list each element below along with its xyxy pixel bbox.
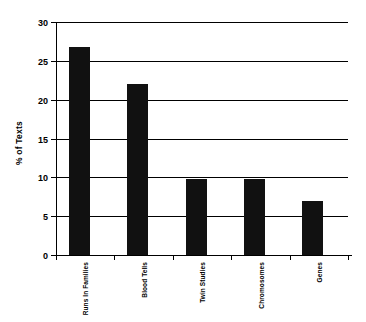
gridline xyxy=(56,22,348,23)
y-tick: 25 xyxy=(51,61,56,62)
x-tick xyxy=(114,255,115,260)
bar xyxy=(127,84,148,255)
bar-chart: % of Texts 051015202530 Runs In Families… xyxy=(0,0,366,322)
x-tick-label: Blood Tells xyxy=(141,262,148,298)
gridline xyxy=(56,61,348,62)
bar xyxy=(244,179,265,255)
y-tick-label: 0 xyxy=(43,251,48,261)
x-tick xyxy=(56,255,57,260)
y-tick-label: 10 xyxy=(38,173,48,183)
y-tick: 15 xyxy=(51,139,56,140)
x-tick xyxy=(231,255,232,260)
y-tick: 30 xyxy=(51,22,56,23)
x-tick xyxy=(348,255,349,260)
y-tick-label: 15 xyxy=(38,135,48,145)
x-tick-label: Twin Studies xyxy=(199,262,206,303)
y-tick: 20 xyxy=(51,100,56,101)
bar xyxy=(302,201,323,255)
x-tick-label: Chromosomes xyxy=(258,262,265,309)
x-tick-label: Runs In Families xyxy=(82,262,89,315)
y-axis-title: % of Texts xyxy=(14,108,24,178)
x-tick xyxy=(290,255,291,260)
bar xyxy=(69,47,90,255)
x-tick xyxy=(173,255,174,260)
plot-area: 051015202530 xyxy=(56,22,348,255)
x-axis-line xyxy=(56,255,352,256)
y-tick-label: 25 xyxy=(38,57,48,67)
x-tick-label: Genes xyxy=(316,262,323,282)
gridline xyxy=(56,139,348,140)
y-tick-label: 30 xyxy=(38,18,48,28)
bar xyxy=(186,179,207,255)
y-tick: 10 xyxy=(51,177,56,178)
y-tick: 5 xyxy=(51,216,56,217)
y-tick-label: 5 xyxy=(43,212,48,222)
gridline xyxy=(56,100,348,101)
y-tick-label: 20 xyxy=(38,96,48,106)
